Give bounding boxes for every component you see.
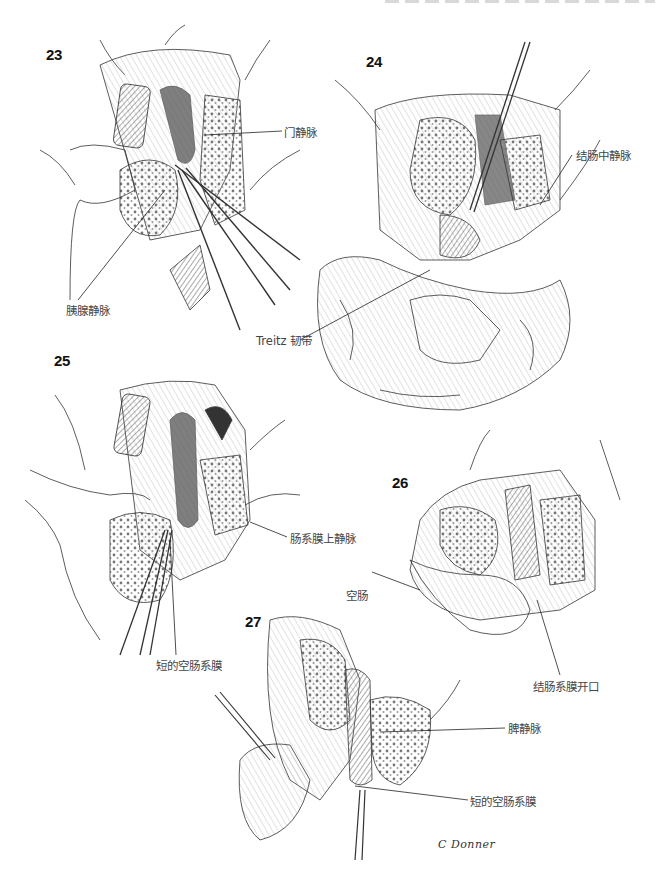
- label-mesocolon-opening: 结肠系膜开口: [533, 678, 599, 694]
- figure-27-drawing: [215, 617, 460, 860]
- figure-number-26: 26: [392, 474, 408, 491]
- label-short-jejunal-mesentery-25: 短的空肠系膜: [156, 657, 222, 673]
- label-portal-vein: 门静脉: [284, 124, 317, 140]
- artist-signature: C Donner: [438, 838, 495, 851]
- figure-number-25: 25: [54, 352, 70, 369]
- figure-number-27: 27: [245, 613, 261, 630]
- figure-24-drawing: [318, 42, 601, 410]
- label-treitz-ligament: Treitz 韧带: [256, 332, 312, 348]
- label-jejunum: 空肠: [346, 587, 368, 603]
- figure-26-drawing: [410, 430, 620, 635]
- figure-number-24: 24: [366, 53, 382, 70]
- label-middle-colic-vein: 结肠中静脉: [576, 147, 631, 163]
- label-splenic-vein: 脾静脉: [508, 720, 541, 736]
- surgical-illustrations: [0, 0, 663, 892]
- label-pancreatic-vein: 胰腺静脉: [66, 302, 110, 318]
- label-superior-mesenteric-vein: 肠系膜上静脉: [290, 530, 356, 546]
- figure-23-drawing: [40, 25, 300, 330]
- figure-number-23: 23: [46, 46, 62, 63]
- label-short-jejunal-mesentery-27: 短的空肠系膜: [470, 793, 536, 809]
